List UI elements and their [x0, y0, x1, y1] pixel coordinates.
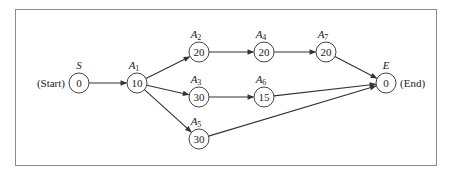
node-label: A7 [317, 28, 329, 42]
node-a1: 10A1 [127, 59, 147, 93]
edge-a1-a2 [146, 57, 190, 79]
node-label: E [382, 59, 390, 71]
node-duration: 0 [76, 77, 82, 89]
node-a6: 15A6 [254, 73, 274, 107]
start-label: (Start) [37, 77, 65, 90]
node-a3: 30A3 [189, 73, 209, 107]
edge-a1-a3 [147, 85, 189, 94]
node-duration: 30 [194, 133, 206, 145]
node-label: S [76, 59, 82, 71]
end-label: (End) [400, 77, 425, 90]
activity-network-diagram: 0S(Start)10A120A230A330A520A415A620A70E(… [0, 0, 452, 181]
node-a4: 20A4 [254, 28, 274, 62]
edge-a6-e [274, 84, 376, 96]
node-label: A1 [128, 59, 140, 73]
node-label: A2 [190, 28, 202, 42]
node-label: A5 [190, 115, 202, 129]
node-label: A3 [190, 73, 202, 87]
edge-a1-a5 [144, 90, 191, 132]
node-duration: 20 [321, 46, 333, 58]
node-duration: 10 [132, 77, 144, 89]
edge-a7-e [335, 57, 377, 79]
node-duration: 20 [259, 46, 271, 58]
node-duration: 30 [194, 91, 206, 103]
node-duration: 20 [194, 46, 206, 58]
node-label: A6 [255, 73, 267, 87]
node-a2: 20A2 [189, 28, 209, 62]
node-s: 0S(Start) [37, 59, 89, 93]
node-a5: 30A5 [189, 115, 209, 149]
node-duration: 0 [383, 77, 389, 89]
node-a7: 20A7 [316, 28, 336, 62]
node-duration: 15 [259, 91, 271, 103]
node-label: A4 [255, 28, 267, 42]
node-e: 0E(End) [376, 59, 425, 93]
